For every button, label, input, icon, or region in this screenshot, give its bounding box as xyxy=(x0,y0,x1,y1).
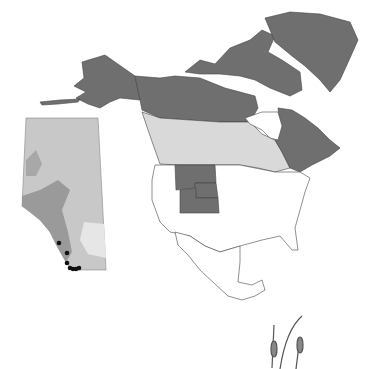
region-northern-canada xyxy=(135,76,258,122)
alberta-inset xyxy=(22,118,106,271)
occurrence-point xyxy=(65,261,70,266)
grass-seedhead-icon xyxy=(271,316,303,369)
occurrence-point xyxy=(77,266,82,271)
occurrence-point xyxy=(65,251,70,256)
region-wyoming xyxy=(195,183,218,198)
north-america-map xyxy=(0,0,375,369)
occurrence-point xyxy=(57,241,62,246)
aleutian-islands xyxy=(40,99,80,105)
region-alaska xyxy=(74,55,140,108)
